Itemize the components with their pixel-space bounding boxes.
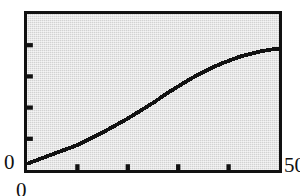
y-axis-ticks (27, 43, 33, 141)
x-axis-ticks (75, 164, 230, 170)
plot-area (24, 11, 282, 173)
y-axis-min-label: 0 (4, 152, 15, 173)
data-series-group (27, 49, 279, 164)
x-axis-min-label: 0 (16, 180, 27, 196)
x-axis-max-label: 50 (284, 155, 300, 176)
plot-canvas (27, 14, 279, 170)
chart-figure: 50 0 0 50 (0, 0, 300, 196)
